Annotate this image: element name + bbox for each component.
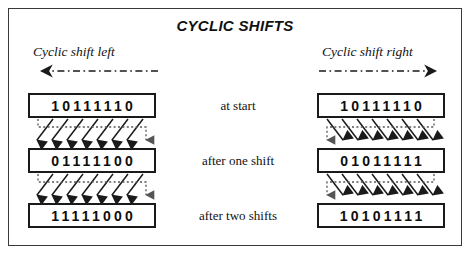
left-bits-row-2: 11111000 [28,203,156,228]
right-bits-row-2: 10101111 [317,203,445,228]
left-bits-value-1: 01111100 [48,154,136,168]
cyclic-shifts-figure: CYCLIC SHIFTS Cyclic shift left 10111110 [0,0,470,259]
right-column-heading: Cyclic shift right [322,44,413,60]
left-bits-value-2: 11111000 [48,209,136,223]
left-shift-arrows-0 [28,118,156,148]
left-bits-row-1: 01111100 [28,148,156,173]
right-direction-arrow-icon [317,63,449,79]
left-shift-arrows-1 [28,173,156,203]
left-bits-value-0: 10111110 [48,99,136,113]
left-bits-row-0: 10111110 [28,93,156,118]
figure-title: CYCLIC SHIFTS [0,17,470,34]
right-bits-value-1: 01011111 [337,154,425,168]
right-shift-arrows-0 [317,118,445,148]
right-bits-value-2: 10101111 [337,209,426,223]
left-column-heading: Cyclic shift left [33,44,115,60]
stage-label-after-one-shift: after one shift [168,153,308,169]
right-shift-arrows-1 [317,173,445,203]
right-bits-row-0: 10111110 [317,93,445,118]
stage-label-after-two-shifts: after two shifts [168,208,308,224]
right-bits-row-1: 01011111 [317,148,445,173]
left-direction-arrow-icon [28,63,160,79]
stage-label-at-start: at start [168,98,308,114]
right-bits-value-0: 10111110 [337,99,425,113]
